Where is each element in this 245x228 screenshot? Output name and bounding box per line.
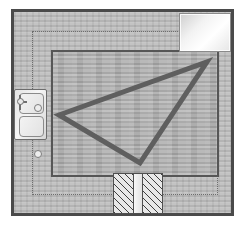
range-control-strip — [134, 174, 142, 213]
sink-basin-lower — [19, 116, 44, 137]
page-title: Kitchen Work Triangle Floor Plan — [0, 21, 1, 22]
refrigerator-icon[interactable]: Refrigerator — [179, 13, 231, 52]
range-burner-block-left — [114, 174, 134, 213]
floor-plan-canvas: Kitchen Work Triangle Floor Plan Refrige… — [0, 0, 245, 228]
range-burner-block-right — [142, 174, 162, 213]
faucet-knob-icon — [17, 98, 24, 105]
refrigerator-label: Refrigerator — [180, 14, 181, 15]
range-icon[interactable]: Range / Cooktop — [113, 173, 163, 214]
kitchen-floor-area — [51, 50, 219, 177]
sink-label: Double Basin Sink — [15, 90, 16, 91]
sink-drain-lower-icon — [34, 150, 42, 158]
sink-icon[interactable]: Double Basin Sink — [14, 89, 47, 140]
sink-drain-upper-icon — [34, 104, 42, 112]
